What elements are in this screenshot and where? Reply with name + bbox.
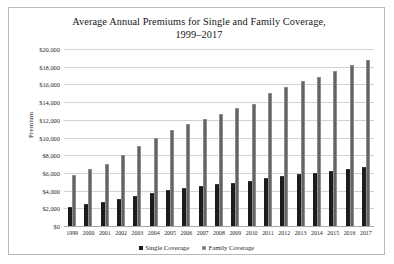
y-axis-tick-label: $6,000 [42,169,60,176]
y-axis-tick-label: $18,000 [39,63,60,70]
legend-label: Single Coverage [145,244,189,251]
bar-family-coverage [137,146,141,226]
bar-family-coverage [366,60,370,226]
bar-family-coverage [252,104,256,226]
bar-family-coverage [121,155,125,226]
bar-family-coverage [219,114,223,226]
bar-group: 2008 [211,49,227,226]
bar-family-coverage [317,77,321,226]
bar-group: 2007 [195,49,211,226]
y-axis-tick-label: $20,000 [39,46,60,53]
plot-area: $0$2,000$4,000$6,000$8,000$10,000$12,000… [64,49,374,227]
x-axis-tick-label: 2004 [148,230,160,236]
x-axis-tick-label: 2009 [229,230,241,236]
bar-family-coverage [186,124,190,226]
bar-group: 2006 [178,49,194,226]
x-axis-tick-label: 1999 [66,230,78,236]
x-axis-tick-label: 2016 [344,230,356,236]
x-axis-tick-label: 2005 [164,230,176,236]
legend-swatch-single [139,246,143,250]
bar-family-coverage [154,138,158,226]
bar-family-coverage [333,71,337,226]
bar-family-coverage [268,93,272,226]
x-axis-tick-label: 2007 [197,230,209,236]
y-axis-tick-label: $16,000 [39,81,60,88]
x-axis-tick-label: 2008 [213,230,225,236]
legend-item[interactable]: Single Coverage [139,244,189,251]
x-axis-line [64,226,374,227]
bar-group: 2003 [129,49,145,226]
chart-title: Average Annual Premiums for Single and F… [39,16,359,41]
legend-item[interactable]: Family Coverage [202,244,254,251]
bar-group: 2014 [309,49,325,226]
bar-group: 2017 [358,49,374,226]
chart-legend: Single CoverageFamily Coverage [9,244,384,251]
x-axis-tick-label: 2014 [311,230,323,236]
bar-group: 2001 [97,49,113,226]
bar-family-coverage [235,108,239,226]
y-axis-title: Premium [27,112,34,138]
bar-group: 2005 [162,49,178,226]
legend-label: Family Coverage [209,244,255,251]
y-axis-tick-label: $8,000 [42,152,60,159]
bar-family-coverage [301,81,305,226]
x-axis-tick-label: 2013 [295,230,307,236]
x-axis-tick-label: 2003 [132,230,144,236]
bar-group: 2004 [146,49,162,226]
y-axis-tick-label: $2,000 [42,205,60,212]
y-axis-tick-label: $12,000 [39,116,60,123]
bar-family-coverage [88,169,92,226]
bar-group: 2010 [243,49,259,226]
y-axis-tick-label: $14,000 [39,99,60,106]
bar-group: 2015 [325,49,341,226]
x-axis-tick-label: 2011 [262,230,274,236]
chart-figure: Average Annual Premiums for Single and F… [8,7,385,255]
bar-family-coverage [350,65,354,226]
x-axis-tick-label: 2006 [180,230,192,236]
bar-family-coverage [203,119,207,226]
legend-swatch-family [202,246,206,250]
bar-family-coverage [72,175,76,226]
bar-group: 2016 [341,49,357,226]
x-axis-tick-label: 2012 [278,230,290,236]
bar-group: 1999 [64,49,80,226]
bar-group: 2009 [227,49,243,226]
chart-title-line-2: 1999–2017 [39,29,359,42]
x-axis-tick-label: 2010 [246,230,258,236]
bar-group: 2002 [113,49,129,226]
bar-group: 2012 [276,49,292,226]
x-axis-tick-label: 2002 [115,230,127,236]
bar-family-coverage [284,87,288,226]
y-axis-tick-label: $10,000 [39,134,60,141]
y-axis-tick-label: $0 [54,223,60,230]
bar-group: 2000 [80,49,96,226]
bar-group: 2011 [260,49,276,226]
chart-title-line-1: Average Annual Premiums for Single and F… [72,16,326,27]
x-axis-tick-label: 2015 [327,230,339,236]
x-axis-tick-label: 2017 [360,230,372,236]
bar-family-coverage [170,130,174,226]
y-axis-tick-label: $4,000 [42,187,60,194]
x-axis-tick-label: 2001 [99,230,111,236]
x-axis-tick-label: 2000 [83,230,95,236]
bar-family-coverage [105,164,109,226]
bar-group: 2013 [292,49,308,226]
